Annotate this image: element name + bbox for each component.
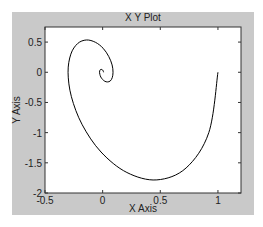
y-tick-label: -1.5 [25,158,43,169]
y-tick-label: -2 [33,188,42,199]
y-axis-label: Y Axis [11,96,22,124]
chart-title: X Y Plot [125,12,161,23]
plot-area [45,27,241,193]
y-tick-label: 0.5 [28,37,42,48]
xy-plot-chart: X Y Plot -0.500.51 -2-1.5-1-0.500.5 X Ax… [0,0,263,227]
x-tick-label: 1 [215,195,221,206]
x-axis-label: X Axis [129,203,157,214]
y-tick-label: -0.5 [25,97,43,108]
y-tick-label: 0 [36,67,42,78]
y-tick-label: -1 [33,128,42,139]
x-tick-label: 0 [100,195,106,206]
